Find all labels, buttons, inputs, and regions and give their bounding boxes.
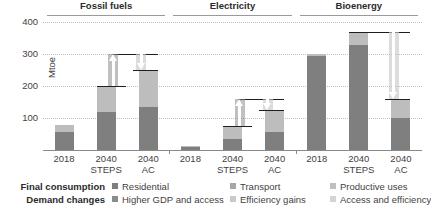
bar-segment-residential	[181, 147, 200, 150]
legend-item-label: Access and efficiency	[340, 194, 431, 205]
bar-1-0[interactable]	[181, 146, 200, 150]
waterfall-connector-end-1	[259, 110, 284, 111]
x-axis-label-0: 2018	[40, 153, 88, 164]
chart-legend: Final consumptionDemand changesResidenti…	[0, 181, 427, 216]
bar-segment-transport	[181, 146, 200, 148]
bar-2-2[interactable]	[391, 99, 410, 150]
x-axis-label-8: 2040AC	[377, 153, 425, 175]
growth-arrow-head-up-0	[109, 54, 117, 61]
plot-area: Mtoe 100200300400	[43, 16, 422, 150]
bar-segment-transport	[223, 126, 242, 139]
x-label-line2: STEPS	[209, 164, 257, 175]
legend-item-label: Residential	[122, 181, 169, 192]
legend-swatch-icon	[330, 196, 336, 202]
x-label-line2: AC	[124, 164, 172, 175]
bar-segment-residential	[391, 118, 410, 150]
legend-swatch-icon	[330, 183, 336, 189]
waterfall-connector-end-2	[385, 99, 410, 100]
bar-0-1[interactable]	[97, 86, 116, 150]
x-label-line1: 2018	[53, 153, 74, 164]
legend-item-higher-gdp-and-access[interactable]: Higher GDP and access	[112, 194, 224, 205]
waterfall-connector-start-1	[223, 126, 252, 127]
bar-segment-transport	[139, 70, 158, 107]
bar-segment-residential	[139, 107, 158, 150]
y-tick-label-400: 400	[22, 17, 38, 27]
y-tick-label-200: 200	[22, 81, 38, 91]
x-label-line1: 2018	[306, 153, 327, 164]
legend-swatch-icon	[230, 196, 236, 202]
bar-1-1[interactable]	[223, 126, 242, 150]
bar-segment-residential	[223, 139, 242, 150]
x-axis-label-6: 2018	[293, 153, 341, 164]
x-axis-line	[43, 150, 422, 151]
x-label-line1: 2040	[138, 153, 159, 164]
y-tick-label-300: 300	[22, 49, 38, 59]
panel-title-rule-2	[300, 15, 418, 16]
legend-item-label: Higher GDP and access	[122, 194, 224, 205]
waterfall-connector-end-0	[133, 70, 158, 71]
x-label-line1: 2040	[264, 153, 285, 164]
x-label-line1: 2040	[96, 153, 117, 164]
bar-segment-transport	[265, 110, 284, 132]
legend-item-label: Productive uses	[340, 181, 408, 192]
bar-1-2[interactable]	[265, 110, 284, 150]
panel-title-rule-1	[173, 15, 291, 16]
x-axis-label-3: 2018	[166, 153, 214, 164]
legend-item-residential[interactable]: Residential	[112, 181, 169, 192]
reduction-arrow-head-down-0	[137, 63, 145, 70]
reduction-arrow-shaft-2	[392, 32, 395, 93]
bar-segment-transport	[349, 32, 368, 45]
bar-0-0[interactable]	[55, 125, 74, 150]
x-label-line2: STEPS	[82, 164, 130, 175]
reduction-arrow-head-down-2	[389, 92, 397, 99]
bar-0-2[interactable]	[139, 70, 158, 150]
bar-segment-residential	[97, 112, 116, 150]
x-axis-label-4: 2040STEPS	[209, 153, 257, 175]
x-axis-label-7: 2040STEPS	[335, 153, 383, 175]
x-label-line2: STEPS	[335, 164, 383, 175]
y-tick-label-100: 100	[22, 113, 38, 123]
growth-arrow-head-up-1	[235, 99, 243, 106]
bar-2-0[interactable]	[307, 54, 326, 150]
legend-item-productive-uses[interactable]: Productive uses	[330, 181, 408, 192]
bar-segment-residential	[307, 56, 326, 150]
x-axis-label-1: 2040STEPS	[82, 153, 130, 175]
legend-swatch-icon	[230, 183, 236, 189]
legend-row-label-0: Final consumption	[0, 181, 105, 192]
growth-arrow-shaft-1	[238, 105, 241, 126]
panel-title-rule-0	[47, 15, 165, 16]
y-axis-label: Mtoe	[46, 57, 57, 78]
bar-segment-transport	[391, 99, 410, 118]
waterfall-connector-mid-2	[364, 32, 410, 33]
legend-item-access-and-efficiency[interactable]: Access and efficiency	[330, 194, 431, 205]
bar-segment-residential	[349, 45, 368, 150]
legend-swatch-icon	[112, 196, 118, 202]
x-label-line2: AC	[251, 164, 299, 175]
legend-swatch-icon	[112, 183, 118, 189]
bar-segment-residential	[55, 132, 74, 150]
legend-item-transport[interactable]: Transport	[230, 181, 280, 192]
waterfall-connector-start-0	[97, 86, 126, 87]
panel-title-0: Fossil fuels	[43, 0, 169, 11]
legend-item-label: Efficiency gains	[240, 194, 306, 205]
growth-arrow-shaft-0	[112, 60, 115, 86]
bar-segment-residential	[265, 132, 284, 150]
bar-2-1[interactable]	[349, 32, 368, 150]
legend-row-label-1: Demand changes	[0, 194, 105, 205]
x-label-line1: 2040	[222, 153, 243, 164]
panel-title-2: Bioenergy	[296, 0, 422, 11]
x-axis-label-5: 2040AC	[251, 153, 299, 175]
waterfall-connector-mid-0	[112, 54, 158, 55]
legend-item-efficiency-gains[interactable]: Efficiency gains	[230, 194, 306, 205]
x-label-line1: 2040	[390, 153, 411, 164]
bar-segment-transport	[55, 125, 74, 132]
x-axis-label-2: 2040AC	[124, 153, 172, 175]
x-label-line1: 2018	[180, 153, 201, 164]
bar-segment-transport	[97, 86, 116, 112]
panel-title-1: Electricity	[169, 0, 295, 11]
x-label-line2: AC	[377, 164, 425, 175]
waterfall-connector-mid-1	[238, 99, 284, 100]
gridline-400	[43, 22, 422, 23]
legend-item-label: Transport	[240, 181, 280, 192]
